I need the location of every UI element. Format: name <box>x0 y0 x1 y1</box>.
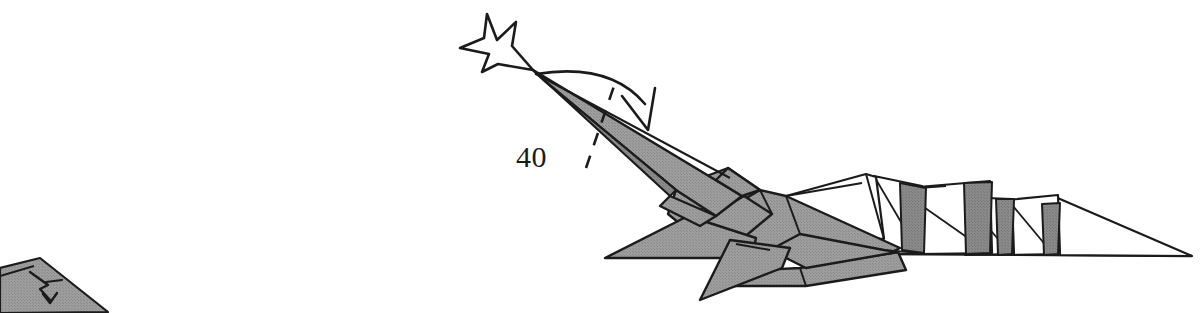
diagram-page: 40 <box>0 0 1202 313</box>
fragment-paper-band <box>0 258 108 313</box>
step-number-label: 40 <box>516 142 547 172</box>
tail-gusset-2 <box>964 182 992 254</box>
push-in-arrow <box>460 14 533 72</box>
tail-gusset-4 <box>1042 203 1060 255</box>
head-neck <box>533 70 760 226</box>
next-step-fragment <box>0 258 108 313</box>
push-arrow-outline-icon <box>460 14 533 72</box>
tail-gusset-3 <box>996 199 1014 255</box>
tail-tip-panel <box>1053 196 1192 256</box>
tail-gusset-1 <box>900 183 926 253</box>
origami-diagram-canvas <box>0 0 1202 313</box>
neck-main-facet <box>533 70 742 216</box>
